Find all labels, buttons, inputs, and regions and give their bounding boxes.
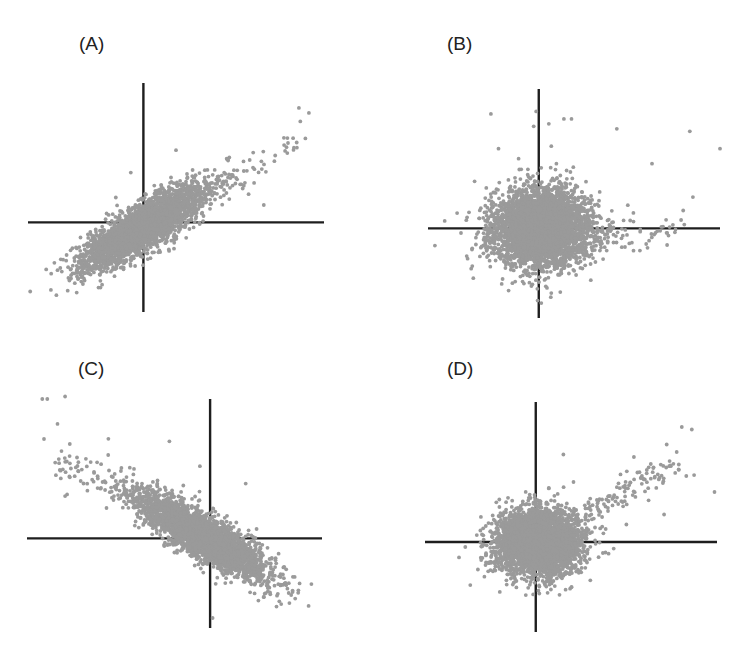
data-point — [109, 246, 113, 250]
data-point — [583, 544, 587, 548]
data-point — [144, 501, 148, 505]
data-point — [575, 552, 579, 556]
data-point — [201, 201, 205, 205]
data-point — [531, 508, 535, 512]
data-point — [234, 521, 238, 525]
data-point — [241, 543, 245, 547]
data-point — [131, 479, 135, 483]
data-point — [220, 567, 224, 571]
data-point — [561, 519, 565, 523]
data-point — [233, 551, 237, 555]
data-point — [176, 541, 180, 545]
data-point — [114, 232, 118, 236]
data-point — [523, 533, 527, 537]
data-point — [479, 529, 483, 533]
data-point — [220, 174, 224, 178]
outlier-point — [562, 117, 566, 121]
data-point — [533, 179, 537, 183]
data-point — [133, 524, 137, 528]
data-point — [510, 265, 514, 269]
data-point — [536, 577, 540, 581]
data-point — [235, 575, 239, 579]
data-point — [547, 216, 551, 220]
data-point — [249, 533, 253, 537]
data-point — [508, 514, 512, 518]
data-point — [198, 171, 202, 175]
data-point — [185, 214, 189, 218]
data-point — [640, 476, 644, 480]
data-point — [223, 548, 227, 552]
data-point — [494, 226, 498, 230]
data-point — [68, 454, 72, 458]
data-point — [544, 502, 548, 506]
data-point — [229, 553, 233, 557]
data-point — [638, 470, 642, 474]
data-point — [540, 511, 544, 515]
data-point — [570, 239, 574, 243]
data-point — [527, 229, 531, 233]
data-point — [543, 278, 547, 282]
data-point — [155, 202, 159, 206]
data-point — [286, 141, 290, 145]
data-point — [174, 209, 178, 213]
data-point — [536, 256, 540, 260]
data-point — [531, 575, 535, 579]
data-point — [180, 499, 184, 503]
outlier-point — [244, 482, 248, 486]
data-point — [146, 220, 150, 224]
data-point — [563, 264, 567, 268]
data-point — [491, 514, 495, 518]
data-point — [490, 522, 494, 526]
data-point — [153, 519, 157, 523]
data-point — [199, 197, 203, 201]
data-point — [538, 585, 542, 589]
data-point — [624, 480, 628, 484]
data-point — [603, 245, 607, 249]
data-point — [514, 564, 518, 568]
data-point — [94, 261, 98, 265]
data-point — [525, 555, 529, 559]
data-point — [251, 166, 255, 170]
data-point — [575, 514, 579, 518]
data-point — [682, 223, 686, 227]
data-point — [65, 253, 69, 257]
data-point — [185, 192, 189, 196]
outlier-point — [489, 112, 493, 116]
data-point — [190, 497, 194, 501]
outlier-point — [292, 146, 296, 150]
data-point — [220, 203, 224, 207]
data-point — [93, 254, 97, 258]
data-point — [542, 525, 546, 529]
data-point — [168, 231, 172, 235]
data-point — [215, 576, 219, 580]
data-point — [522, 224, 526, 228]
data-point — [207, 533, 211, 537]
data-point — [94, 228, 98, 232]
data-point — [260, 576, 264, 580]
data-point — [555, 531, 559, 535]
data-point — [522, 282, 526, 286]
data-point — [126, 506, 130, 510]
data-point — [553, 584, 557, 588]
data-point — [254, 543, 258, 547]
data-point — [111, 265, 115, 269]
data-point — [507, 200, 511, 204]
panel-c — [27, 395, 322, 628]
data-point — [531, 193, 535, 197]
data-point — [247, 543, 251, 547]
data-point — [571, 225, 575, 229]
data-point — [65, 460, 69, 464]
data-point — [516, 531, 520, 535]
data-point — [684, 474, 688, 478]
data-point — [92, 480, 96, 484]
data-point — [129, 262, 133, 266]
data-point — [523, 245, 527, 249]
data-point — [232, 543, 236, 547]
data-point — [510, 505, 514, 509]
data-point — [516, 250, 520, 254]
data-point — [128, 489, 132, 493]
data-point — [234, 176, 238, 180]
data-point — [545, 237, 549, 241]
data-point — [537, 244, 541, 248]
data-point — [59, 477, 63, 481]
